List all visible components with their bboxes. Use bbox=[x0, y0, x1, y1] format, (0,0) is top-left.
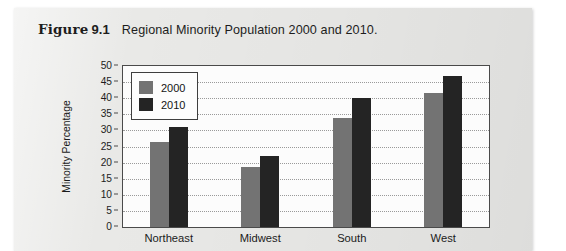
y-tick-mark bbox=[114, 226, 118, 227]
legend-item-2000: 2000 bbox=[139, 79, 185, 96]
y-tick-mark bbox=[114, 177, 118, 178]
y-tick-label: 0 bbox=[106, 221, 112, 232]
chart-legend: 2000 2010 bbox=[131, 72, 198, 120]
legend-label-2010: 2010 bbox=[161, 99, 185, 111]
legend-swatch-2000 bbox=[139, 81, 153, 94]
figure-page: Figure9.1Regional Minority Population 20… bbox=[0, 0, 566, 251]
legend-swatch-2010 bbox=[139, 98, 153, 111]
bar-chart: Minority Percentage 50454035302520151050… bbox=[14, 46, 532, 251]
y-tick-label: 20 bbox=[101, 156, 112, 167]
figure-label-word: Figure bbox=[38, 21, 88, 37]
bar-west-2010 bbox=[443, 76, 462, 227]
x-axis-labels: NortheastMidwestSouthWest bbox=[122, 232, 490, 251]
y-tick-label: 30 bbox=[101, 124, 112, 135]
bar-midwest-2010 bbox=[260, 156, 279, 227]
y-tick-mark bbox=[114, 145, 118, 146]
legend-item-2010: 2010 bbox=[139, 96, 185, 113]
x-tick-label-west: West bbox=[431, 232, 456, 244]
y-tick-label: 45 bbox=[101, 76, 112, 87]
x-tick-label-midwest: Midwest bbox=[240, 232, 281, 244]
x-tick-label-northeast: Northeast bbox=[144, 232, 193, 244]
figure-title-text: Regional Minority Population 2000 and 20… bbox=[122, 23, 378, 37]
bar-northeast-2010 bbox=[169, 127, 188, 227]
bar-group bbox=[333, 66, 371, 227]
y-tick-mark bbox=[114, 193, 118, 194]
y-tick-mark bbox=[114, 81, 118, 82]
y-tick-label: 35 bbox=[101, 108, 112, 119]
y-tick-label: 50 bbox=[101, 60, 112, 71]
x-tick-label-south: South bbox=[337, 232, 366, 244]
y-tick-mark bbox=[114, 113, 118, 114]
bar-south-2010 bbox=[352, 98, 371, 227]
y-tick-label: 25 bbox=[101, 140, 112, 151]
y-tick-mark bbox=[114, 161, 118, 162]
y-tick-label: 15 bbox=[101, 172, 112, 183]
y-tick-mark bbox=[114, 209, 118, 210]
y-tick-mark bbox=[114, 129, 118, 130]
bar-midwest-2000 bbox=[241, 167, 260, 227]
y-axis-title: Minority Percentage bbox=[58, 65, 74, 228]
figure-number: 9.1 bbox=[91, 22, 109, 37]
y-tick-mark bbox=[114, 65, 118, 66]
y-tick-label: 10 bbox=[101, 188, 112, 199]
bar-south-2000 bbox=[333, 118, 352, 227]
y-tick-label: 5 bbox=[106, 204, 112, 215]
bar-west-2000 bbox=[424, 93, 443, 227]
bar-group bbox=[241, 66, 279, 227]
y-tick-label: 40 bbox=[101, 92, 112, 103]
y-tick-mark bbox=[114, 97, 118, 98]
bar-group bbox=[424, 66, 462, 227]
y-axis-ticks: 50454035302520151050 bbox=[84, 65, 118, 228]
legend-label-2000: 2000 bbox=[161, 82, 185, 94]
figure-caption: Figure9.1Regional Minority Population 20… bbox=[38, 21, 378, 37]
bar-northeast-2000 bbox=[150, 142, 169, 227]
